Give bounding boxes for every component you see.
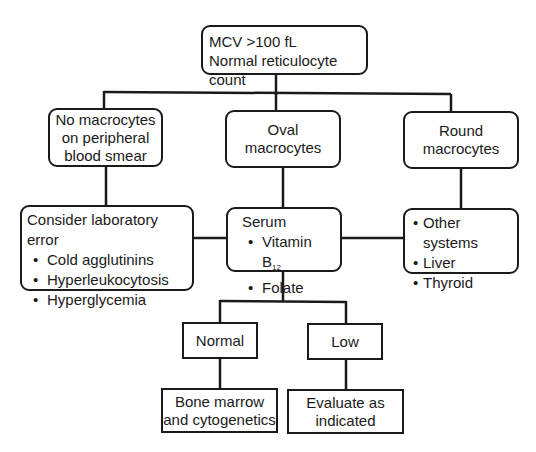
serum-node: Serum Vitamin B12 Folate [226, 207, 342, 272]
serum-title: Serum [242, 212, 326, 232]
no-macrocytes-node: No macrocytes on peripheral blood smear [48, 108, 163, 167]
vitamin-b12-label: Vitamin B [262, 233, 312, 270]
node-label: Low [331, 333, 359, 351]
node-line: blood smear [64, 147, 147, 165]
node-line: indicated [315, 412, 375, 430]
lab-error-node: Consider laboratory error Cold agglutini… [20, 205, 194, 291]
other-systems-node: Other systems Liver Thyroid [403, 208, 519, 274]
bone-marrow-node: Bone marrow and cytogenetics [161, 388, 278, 433]
node-line: on peripheral [62, 129, 150, 147]
evaluate-node: Evaluate as indicated [287, 389, 404, 434]
list-item: Liver [407, 253, 515, 273]
node-line: Evaluate as [306, 394, 384, 412]
lab-error-list: Cold agglutinins Hyperleukocytosis Hyper… [27, 250, 187, 310]
node-line: Oval [268, 121, 299, 139]
list-item: Hyperglycemia [27, 290, 187, 310]
lab-error-title: Consider laboratory error [27, 210, 187, 250]
normal-node: Normal [182, 322, 258, 359]
list-item: Thyroid [407, 273, 515, 293]
node-line: Round [439, 122, 483, 140]
node-line: macrocytes [423, 140, 500, 158]
oval-macrocytes-node: Oval macrocytes [225, 110, 341, 168]
node-line: Bone marrow [175, 393, 264, 411]
node-line: macrocytes [245, 139, 322, 157]
round-macrocytes-node: Round macrocytes [403, 111, 519, 169]
node-line: No macrocytes [55, 111, 155, 129]
serum-list: Vitamin B12 Folate [242, 232, 326, 298]
list-item: Folate [242, 278, 326, 298]
low-node: Low [307, 323, 383, 360]
subscript: 12 [272, 263, 281, 272]
root-node: MCV >100 fL Normal reticulocyte count [201, 25, 368, 75]
node-line: and cytogenetics [163, 411, 276, 429]
root-line1: MCV >100 fL [209, 32, 360, 51]
list-item: Cold agglutinins [27, 250, 187, 270]
list-item: Vitamin B12 [242, 232, 326, 278]
list-item: Hyperleukocytosis [27, 270, 187, 290]
other-list: Other systems Liver Thyroid [407, 213, 515, 293]
list-item: Other systems [407, 213, 515, 253]
node-label: Normal [196, 332, 244, 350]
root-line2: Normal reticulocyte count [209, 51, 360, 89]
